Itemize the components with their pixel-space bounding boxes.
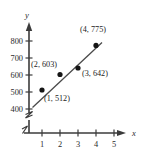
data-point-label-2: (2, 603) <box>31 60 57 69</box>
y-tick-label-800: 800 <box>10 37 23 46</box>
y-tick-label-700: 700 <box>10 54 23 63</box>
plot-canvas: 800 700 600 500 400 1 2 3 4 5 y x (1, 51… <box>0 0 144 153</box>
x-tick-label-2: 2 <box>58 140 62 149</box>
data-point-label-1: (1, 512) <box>44 94 70 103</box>
x-tick-label-3: 3 <box>76 140 80 149</box>
data-point-label-3: (3, 642) <box>82 69 108 78</box>
data-point-marker <box>75 65 80 70</box>
y-axis-arrowhead <box>26 22 32 31</box>
data-point-marker <box>39 87 44 92</box>
x-tick-label-4: 4 <box>94 140 99 149</box>
data-point-marker <box>57 72 62 77</box>
y-axis-label: y <box>24 10 29 20</box>
y-tick-label-400: 400 <box>10 105 23 114</box>
x-tick-label-1: 1 <box>40 140 44 149</box>
x-tick-label-5: 5 <box>112 140 116 149</box>
data-point-marker <box>93 43 98 48</box>
x-axis-arrowhead <box>117 130 126 136</box>
x-axis-label: x <box>131 128 136 138</box>
y-axis-break-icon <box>26 112 33 119</box>
scatter-plot-figure: 800 700 600 500 400 1 2 3 4 5 y x (1, 51… <box>0 0 144 153</box>
y-tick-label-500: 500 <box>10 88 23 97</box>
y-tick-label-600: 600 <box>10 71 23 80</box>
data-point-label-4: (4, 775) <box>80 25 106 34</box>
